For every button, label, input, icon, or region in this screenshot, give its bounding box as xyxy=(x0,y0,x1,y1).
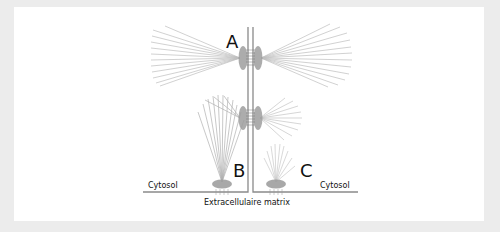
label-b: B xyxy=(233,160,245,181)
cell-membrane xyxy=(143,27,358,192)
adhesion-c xyxy=(266,180,286,196)
junction-middle-fibers-right xyxy=(260,98,302,140)
label-cytosol-left: Cytosol xyxy=(148,181,178,190)
label-c: C xyxy=(300,160,313,181)
adhesion-b xyxy=(212,180,232,196)
junction-a-plaques xyxy=(239,46,263,70)
label-extracellular-matrix: Extracellulaire matrix xyxy=(204,198,290,207)
junction-middle-plaques xyxy=(239,106,263,130)
junction-a-fibers-right xyxy=(261,24,352,87)
label-a: A xyxy=(226,31,239,52)
cell-junction-diagram: A B C Cytosol Cytosol Extracellulaire ma… xyxy=(0,0,500,232)
label-cytosol-right: Cytosol xyxy=(320,181,350,190)
adhesion-c-fibers xyxy=(264,144,295,182)
